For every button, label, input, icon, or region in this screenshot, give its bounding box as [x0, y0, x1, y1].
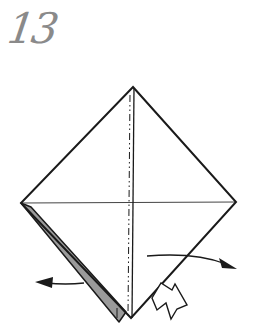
vertical-edge-line: [132, 88, 134, 318]
origami-diagram: [0, 0, 255, 336]
push-arrow-icon: [152, 283, 187, 319]
horizontal-crease: [21, 202, 236, 203]
arrow-right-icon: [147, 255, 237, 269]
arrow-left-icon: [35, 277, 84, 288]
mountain-fold-line: [128, 95, 130, 316]
